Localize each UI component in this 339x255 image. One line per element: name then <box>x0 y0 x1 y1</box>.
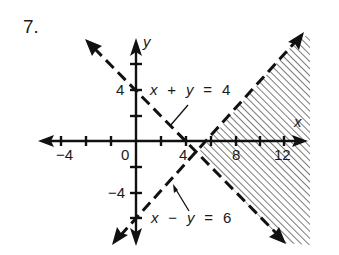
eq2-rhs: 6 <box>223 209 232 226</box>
x-tick-label-4: 4 <box>179 146 187 163</box>
eq2-equals: = <box>204 209 213 226</box>
graph-figure: 7. y x −4 0 4 8 12 4 −4 x + y = 4 x − y … <box>0 0 339 255</box>
label-pointer-line <box>175 188 189 211</box>
problem-number: 7. <box>23 16 39 38</box>
eq1-rhs: 4 <box>222 81 231 98</box>
eq1-var-x: x <box>150 81 158 98</box>
x-tick-label-neg4: −4 <box>56 146 73 163</box>
x-axis-label: x <box>294 113 302 130</box>
y-axis <box>130 50 142 238</box>
eq1-equals: = <box>203 81 212 98</box>
eq1-op: + <box>167 81 176 98</box>
eq2-var-y: y <box>187 209 195 226</box>
equation-label-x-minus-y-eq-6: x − y = 6 <box>151 209 232 226</box>
y-tick-label-4: 4 <box>116 81 124 98</box>
y-tick-label-neg4: −4 <box>108 184 125 201</box>
x-tick-label-8: 8 <box>232 146 240 163</box>
x-tick-label-0: 0 <box>121 146 129 163</box>
equation-label-x-plus-y-eq-4: x + y = 4 <box>150 81 231 98</box>
eq2-var-x: x <box>151 209 159 226</box>
x-tick-label-12: 12 <box>274 146 291 163</box>
label-pointer-line-2 <box>170 105 188 126</box>
eq1-var-y: y <box>186 81 194 98</box>
eq2-op: − <box>168 209 177 226</box>
y-axis-label: y <box>143 33 151 50</box>
